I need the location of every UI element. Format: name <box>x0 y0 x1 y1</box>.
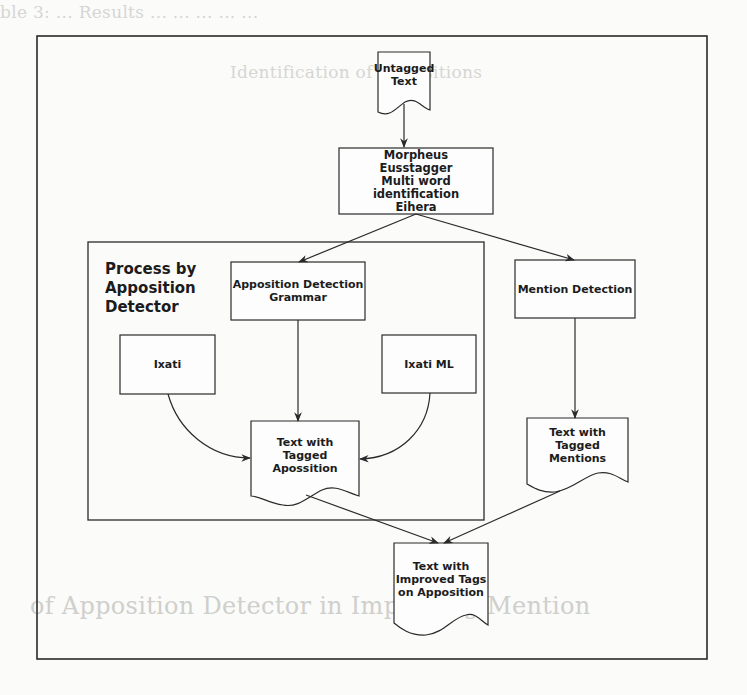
node-label-line: Ixati <box>154 358 182 371</box>
node-label-line: Text <box>391 75 417 88</box>
node-untagged-text: Untagged Text <box>378 60 430 90</box>
edge-preprocessing-to-grammar <box>299 214 416 262</box>
group-title: Process by Apposition Detector <box>105 260 215 317</box>
node-label-line: Tagged <box>555 439 600 452</box>
node-tagged-apposition: Text with Tagged Apossition <box>251 440 359 470</box>
edge-ixati-to-tagged-apposition <box>168 394 250 458</box>
node-label-line: Tagged Apossition <box>251 449 359 475</box>
node-label-line: Eusstagger <box>380 162 453 175</box>
node-label-line: Ixati ML <box>404 358 453 371</box>
node-label-line: Apposition Detection <box>233 278 364 291</box>
node-apposition-grammar: Apposition Detection Grammar <box>231 262 365 320</box>
group-title-line: Detector <box>105 298 215 317</box>
node-label-line: Untagged <box>374 62 435 75</box>
node-label-line: Multi word identification <box>339 175 493 201</box>
edge-tagged-mentions-to-improved <box>444 491 560 543</box>
edge-preprocessing-to-mention <box>416 214 574 260</box>
node-label-line: Grammar <box>269 291 327 304</box>
node-mention-detection: Mention Detection <box>515 260 635 318</box>
node-tagged-mentions: Text with Tagged Mentions <box>527 424 628 466</box>
group-title-line: Process by <box>105 260 215 279</box>
group-title-line: Apposition <box>105 279 215 298</box>
node-ixati-ml: Ixati ML <box>382 335 476 393</box>
node-label-line: Eihera <box>395 201 436 214</box>
node-label-line: on Apposition <box>398 586 484 599</box>
node-label-line: Mentions <box>549 452 606 465</box>
node-improved-tags: Text with Improved Tags on Apposition <box>394 558 488 600</box>
node-label-line: Improved Tags <box>396 573 487 586</box>
node-label-line: Morpheus <box>384 149 448 162</box>
node-label-line: Mention Detection <box>518 283 633 296</box>
node-preprocessing: Morpheus Eusstagger Multi word identific… <box>339 148 493 214</box>
node-ixati: Ixati <box>120 335 215 394</box>
flowchart-canvas <box>0 0 747 695</box>
node-label-line: Text with <box>549 426 606 439</box>
node-label-line: Text with <box>277 436 334 449</box>
node-label-line: Text with <box>413 560 470 573</box>
edge-tagged-apposition-to-improved <box>306 495 438 543</box>
edge-ixati-ml-to-tagged-apposition <box>360 393 430 459</box>
